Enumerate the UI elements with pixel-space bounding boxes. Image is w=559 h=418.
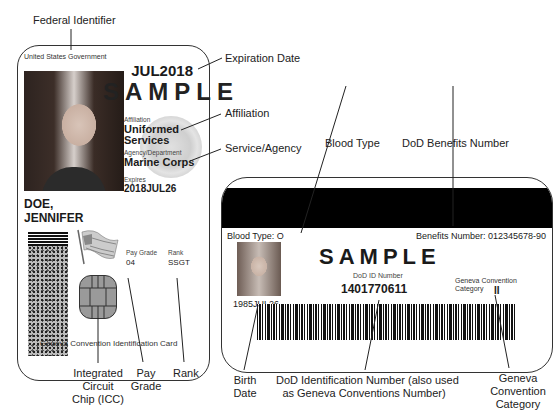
- pay-grade-line2: Grade: [128, 380, 164, 393]
- blood-type: Blood Type: O: [227, 231, 284, 241]
- expires-value: 2018JUL26: [124, 183, 176, 194]
- callout-pay-grade: Pay Grade: [128, 367, 164, 393]
- card-footer: Geneva Convention Identification Card: [40, 339, 177, 348]
- geneva-line3: Category: [488, 398, 548, 411]
- agency-label: Agency/Department: [124, 149, 181, 156]
- cardholder-name: DOE, JENNIFER: [24, 197, 83, 225]
- affiliation-line2: Services: [124, 135, 179, 146]
- expires-label: Expires: [124, 176, 146, 183]
- flag-icon: [74, 228, 120, 268]
- birth-date-line2: Date: [230, 387, 260, 400]
- shirt-shape: [42, 167, 106, 191]
- stripe-bars: [28, 232, 68, 246]
- affiliation-value: Uniformed Services: [124, 124, 179, 146]
- pay-grade-label: Pay Grade: [126, 249, 157, 256]
- expiration-date: JUL2018: [131, 62, 193, 79]
- rank-label: Rank: [168, 249, 183, 256]
- callout-geneva-category: Geneva Convention Category: [488, 372, 548, 411]
- geneva-line1: Geneva: [488, 372, 548, 385]
- geneva-line2: Convention: [488, 385, 548, 398]
- icc-line1: Integrated: [70, 367, 126, 380]
- name-line2: JENNIFER: [24, 211, 83, 225]
- geneva-label-line2: Category: [455, 285, 517, 293]
- barcode: [257, 304, 515, 340]
- small-photo: [237, 242, 281, 296]
- sample-watermark: SAMPLE: [103, 78, 239, 106]
- icc-line2: Circuit: [70, 380, 126, 393]
- callout-icc: Integrated Circuit Chip (ICC): [70, 367, 126, 406]
- callout-federal-identifier: Federal Identifier: [33, 14, 116, 26]
- dod-id-label: DoD ID Number: [353, 272, 403, 279]
- issuer-text: United States Government: [24, 53, 107, 60]
- dod-id-line2: as Geneva Conventions Number): [276, 387, 452, 400]
- rank-value: SSGT: [168, 258, 190, 267]
- icc-line3: Chip (ICC): [70, 393, 126, 406]
- benefits-number: Benefits Number: 012345678-90: [416, 231, 546, 241]
- dod-id-line1: DoD Identification Number (also used: [276, 374, 452, 387]
- callout-birth-date: Birth Date: [230, 374, 260, 400]
- callout-expiration-date: Expiration Date: [225, 52, 300, 64]
- callout-benefits-number: DoD Benefits Number: [402, 137, 509, 149]
- id-card-back: Blood Type: O Benefits Number: 012345678…: [221, 177, 553, 373]
- smart-chip-icon: [79, 275, 117, 319]
- sample-watermark: SAMPLE: [319, 244, 441, 270]
- callout-service-agency: Service/Agency: [225, 142, 301, 154]
- id-card-front: United States Government JUL2018 SAMPLE …: [17, 45, 210, 381]
- magnetic-stripe: [222, 188, 553, 228]
- geneva-category-value: II: [494, 285, 500, 296]
- geneva-label-line1: Geneva Convention: [455, 277, 517, 285]
- callout-rank: Rank: [173, 367, 199, 379]
- callout-affiliation: Affiliation: [225, 107, 269, 119]
- callout-dod-id: DoD Identification Number (also used as …: [276, 374, 452, 400]
- agency-value: Marine Corps: [124, 156, 194, 168]
- callout-blood-type: Blood Type: [325, 137, 380, 149]
- affiliation-label: Affiliation: [124, 116, 150, 123]
- pay-grade-line1: Pay: [128, 367, 164, 380]
- pay-grade-value: 04: [126, 258, 135, 267]
- name-line1: DOE,: [24, 197, 83, 211]
- geneva-label: Geneva Convention Category: [455, 277, 517, 293]
- dod-id-number: 1401770611: [341, 282, 407, 296]
- birth-date-line1: Birth: [230, 374, 260, 387]
